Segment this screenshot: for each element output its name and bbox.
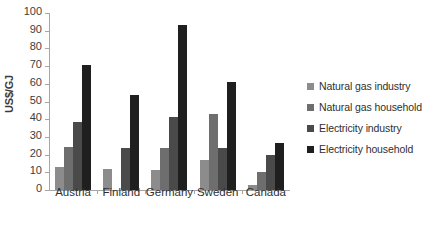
legend-item[interactable]: Electricity industry — [307, 119, 425, 137]
y-axis-tick-label: 80 — [12, 40, 42, 52]
y-axis-tick-label: 20 — [12, 147, 42, 159]
bar — [64, 147, 73, 190]
bar-group — [242, 13, 290, 190]
y-axis-tick-label: 0 — [12, 182, 42, 194]
x-axis-category-label: Finland — [97, 186, 145, 198]
legend-item-label: Natural gas industry — [319, 80, 410, 92]
bar — [218, 148, 227, 190]
bar-group — [97, 13, 145, 190]
legend-swatch-icon — [307, 125, 314, 132]
x-axis-category-label: Germany — [145, 186, 193, 198]
plot-area: 0102030405060708090100 — [49, 13, 290, 190]
bar — [82, 65, 91, 190]
y-axis-tick-label: 30 — [12, 129, 42, 141]
legend-item-label: Natural gas household — [319, 101, 422, 113]
y-axis-tick-label: 100 — [12, 5, 42, 17]
y-axis-tick-label: 50 — [12, 94, 42, 106]
bar — [227, 82, 236, 190]
legend-item[interactable]: Electricity household — [307, 140, 425, 158]
bar-chart: US$/GJ 0102030405060708090100 AustriaFin… — [0, 0, 426, 227]
legend-swatch-icon — [307, 146, 314, 153]
legend-swatch-icon — [307, 104, 314, 111]
x-axis-category-label: Canada — [242, 186, 290, 198]
bar — [275, 143, 284, 190]
legend-item[interactable]: Natural gas household — [307, 98, 425, 116]
bar-group — [49, 13, 97, 190]
x-axis-category-label: Sweden — [194, 186, 242, 198]
bar — [169, 117, 178, 190]
bar-group — [145, 13, 193, 190]
y-axis-tick-label: 70 — [12, 58, 42, 70]
y-axis-tick-label: 40 — [12, 111, 42, 123]
y-axis-tick-label: 90 — [12, 23, 42, 35]
bar — [130, 95, 139, 190]
bar — [266, 155, 275, 190]
bar — [121, 148, 130, 190]
legend-item-label: Electricity household — [319, 143, 413, 155]
chart-legend: Natural gas industryNatural gas househol… — [307, 77, 425, 161]
bar — [160, 148, 169, 190]
x-axis-category-label: Austria — [49, 186, 97, 198]
legend-swatch-icon — [307, 83, 314, 90]
bar — [73, 122, 82, 190]
legend-item-label: Electricity industry — [319, 122, 402, 134]
bar-group — [194, 13, 242, 190]
y-axis-tick-label: 60 — [12, 76, 42, 88]
legend-item[interactable]: Natural gas industry — [307, 77, 425, 95]
bar — [209, 114, 218, 190]
bar — [178, 25, 187, 190]
y-axis-tick-label: 10 — [12, 164, 42, 176]
